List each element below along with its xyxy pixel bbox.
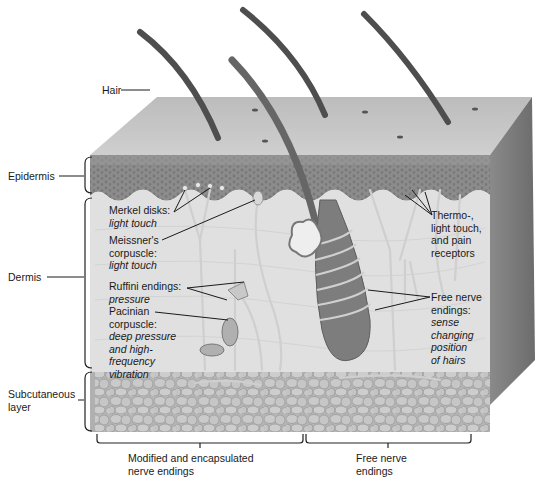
- skin-surface: [90, 97, 532, 155]
- label-thermo-receptors: Thermo-, light touch, and pain receptors: [431, 209, 482, 259]
- label-dermis: Dermis: [8, 271, 41, 284]
- pacinian-corpuscle: [222, 318, 238, 346]
- label-merkel-disks: Merkel disks: light touch: [109, 204, 170, 229]
- label-hair: Hair: [102, 84, 121, 97]
- label-meissner-corpuscle: Meissner's corpuscle: light touch: [109, 234, 159, 272]
- subcutaneous-layer: [95, 372, 490, 432]
- label-subcutaneous: Subcutaneous layer: [8, 388, 75, 413]
- label-free-nerve-endings-hair: Free nerve endings: sense changing posit…: [431, 291, 482, 366]
- label-pacinian-corpuscle: Pacinian corpuscle: deep pressure and hi…: [109, 305, 176, 380]
- label-encapsulated-endings: Modified and encapsulated nerve endings: [128, 452, 254, 477]
- label-ruffini-endings: Ruffini endings: pressure: [109, 280, 181, 305]
- label-epidermis: Epidermis: [8, 170, 55, 183]
- label-free-endings: Free nerve endings: [356, 452, 407, 477]
